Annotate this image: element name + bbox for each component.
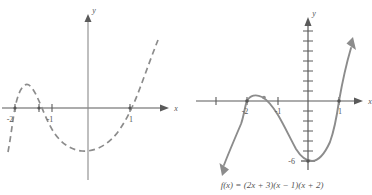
- tick-label-neg2: -2: [7, 115, 14, 124]
- root-marker: [337, 99, 341, 103]
- x-axis-label: x: [173, 104, 178, 113]
- cubic-curve-dashed: [8, 40, 158, 152]
- y-axis-label: y: [91, 6, 96, 15]
- x-axis-label: x: [367, 97, 372, 106]
- tick-label-neg2: -2: [242, 107, 249, 116]
- y-axis-right: [305, 17, 312, 170]
- y-axis-arrowhead-icon: [305, 17, 312, 26]
- vertex-marker: [262, 96, 266, 100]
- figure-container: -2 -1 1 x y: [0, 0, 372, 195]
- x-axis-arrowhead-icon: [354, 97, 363, 104]
- root-markers-right: [245, 96, 341, 163]
- tick-label-neg1: -1: [275, 107, 282, 116]
- root-marker: [37, 106, 40, 109]
- tick-label-neg1: -1: [47, 115, 54, 124]
- x-axis-arrowhead-icon: [160, 104, 169, 111]
- root-marker: [245, 99, 249, 103]
- root-marker: [13, 106, 16, 109]
- y-axis-left: [85, 14, 92, 180]
- graph-panel-left: -2 -1 1 x y: [0, 0, 186, 195]
- y-axis-label: y: [311, 9, 316, 18]
- x-axis-left: [2, 104, 169, 111]
- tick-label-pos1: 1: [338, 107, 342, 116]
- minimum-marker: [306, 159, 310, 163]
- y-axis-arrowhead-icon: [85, 14, 92, 22]
- graph-panel-right: -2 -1 1 -6 x y f(x) = (2x + 3)(x − 1)(x …: [186, 0, 372, 195]
- root-marker: [128, 106, 131, 109]
- tick-label-neg6: -6: [288, 157, 295, 166]
- tick-label-pos1: 1: [129, 115, 133, 124]
- function-equation: f(x) = (2x + 3)(x − 1)(x + 2): [221, 180, 324, 190]
